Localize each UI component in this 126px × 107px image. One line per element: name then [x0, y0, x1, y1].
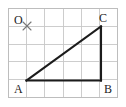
vertex-label-c: C [99, 12, 107, 24]
vertex-label-a: A [14, 83, 23, 95]
triangle-side-ca [27, 27, 102, 81]
triangle-abc [27, 27, 102, 81]
geometry-figure: O A B C [0, 0, 126, 107]
origin-label-o: O [14, 14, 23, 26]
vertex-label-b: B [104, 83, 112, 95]
